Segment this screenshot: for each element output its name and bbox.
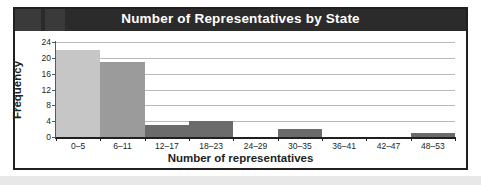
bar	[278, 129, 322, 137]
y-tick-label: 16	[42, 69, 51, 79]
y-tick-label: 4	[46, 116, 51, 126]
histogram-figure: Number of Representatives by State 04812…	[0, 0, 481, 185]
chart-title-bar: Number of Representatives by State	[15, 9, 466, 31]
y-tick-label: 8	[46, 100, 51, 110]
footer-strip	[0, 176, 481, 185]
x-tick-mark	[189, 138, 190, 141]
x-tick-label: 42–47	[366, 141, 410, 151]
bar	[411, 133, 455, 137]
bar	[145, 125, 189, 137]
x-axis-title: Number of representatives	[0, 152, 481, 164]
y-tick-label: 20	[42, 53, 51, 63]
x-tick-mark	[278, 138, 279, 141]
x-tick-mark	[145, 138, 146, 141]
x-tick-label: 6–11	[100, 141, 144, 151]
y-axis-title: Frequency	[11, 52, 25, 128]
x-tick-label: 48–53	[411, 141, 455, 151]
bar	[189, 121, 233, 137]
x-tick-label: 24–29	[233, 141, 277, 151]
y-tick-label: 0	[46, 132, 51, 142]
x-tick-mark	[411, 138, 412, 141]
bar	[100, 62, 144, 137]
x-tick-mark	[455, 138, 456, 141]
y-tick-mark	[52, 42, 56, 43]
gridline	[56, 58, 455, 59]
plot-area: 04812162024	[56, 42, 455, 137]
chart-title: Number of Representatives by State	[15, 11, 466, 26]
x-axis-line	[55, 137, 456, 139]
x-tick-label: 18–23	[189, 141, 233, 151]
y-tick-label: 24	[42, 37, 51, 47]
x-tick-label: 0–5	[56, 141, 100, 151]
x-tick-mark	[56, 138, 57, 141]
y-tick-label: 12	[42, 85, 51, 95]
x-tick-mark	[366, 138, 367, 141]
bar	[56, 50, 100, 137]
x-tick-mark	[100, 138, 101, 141]
x-tick-label: 30–35	[278, 141, 322, 151]
x-tick-label: 36–41	[322, 141, 366, 151]
gridline	[56, 42, 455, 43]
x-tick-label: 12–17	[145, 141, 189, 151]
x-tick-mark	[233, 138, 234, 141]
x-tick-mark	[322, 138, 323, 141]
